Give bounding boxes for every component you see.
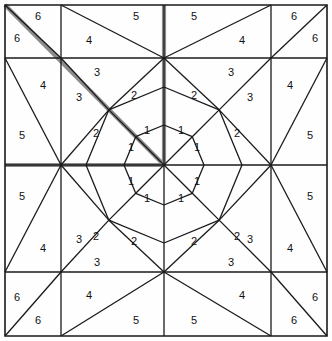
region-label-r5-n-w: 5: [133, 10, 139, 22]
region-label-r1-sse: 1: [178, 192, 184, 204]
tiling-figure: 1111111122222222333333334444444455555555…: [0, 0, 332, 341]
region-label-r5-w-n: 5: [19, 129, 25, 141]
region-label-r3-se-a: 3: [247, 233, 253, 245]
region-label-r3-sw-a: 3: [76, 233, 82, 245]
region-label-r1-ene: 1: [194, 141, 200, 153]
region-label-r2-sse: 2: [191, 235, 197, 247]
region-label-r6-nw-b: 6: [14, 32, 20, 44]
region-label-r1-ssw: 1: [144, 192, 150, 204]
region-label-r6-se-a: 6: [312, 291, 318, 303]
region-label-r1-wnw: 1: [128, 141, 134, 153]
region-label-r6-se-b: 6: [291, 314, 297, 326]
region-label-r6-ne-b: 6: [312, 32, 318, 44]
region-label-r2-ssw: 2: [131, 235, 137, 247]
diagram-canvas: 1111111122222222333333334444444455555555…: [0, 0, 332, 341]
region-label-r2-nne: 2: [191, 89, 197, 101]
region-label-r5-e-s: 5: [307, 190, 313, 202]
region-label-r1-nne: 1: [178, 124, 184, 136]
region-label-r2-ese: 2: [234, 230, 240, 242]
region-label-r5-s-e: 5: [191, 314, 197, 326]
region-label-r3-sw-b: 3: [94, 256, 100, 268]
region-label-r1-wsw: 1: [128, 175, 134, 187]
region-label-r4-s-w: 4: [86, 289, 92, 301]
region-label-r4-n-e: 4: [239, 34, 245, 46]
region-label-r4-s-e: 4: [239, 289, 245, 301]
region-label-r4-e-s: 4: [287, 242, 293, 254]
region-label-r3-nw-a: 3: [94, 66, 100, 78]
region-label-r5-n-e: 5: [191, 10, 197, 22]
region-label-r6-ne-a: 6: [291, 10, 297, 22]
region-label-r5-e-n: 5: [307, 129, 313, 141]
region-label-r2-wsw: 2: [93, 230, 99, 242]
region-label-r6-sw-b: 6: [35, 314, 41, 326]
region-label-r4-e-n: 4: [287, 79, 293, 91]
region-label-r2-ene: 2: [234, 127, 240, 139]
region-label-r6-nw-a: 6: [35, 10, 41, 22]
region-label-r2-wnw: 2: [93, 127, 99, 139]
region-label-r1-ese: 1: [194, 175, 200, 187]
region-label-r4-w-n: 4: [40, 79, 46, 91]
region-label-r3-nw-b: 3: [76, 91, 82, 103]
region-label-r3-ne-b: 3: [247, 91, 253, 103]
region-label-r6-sw-a: 6: [14, 291, 20, 303]
region-label-r2-nnw: 2: [131, 89, 137, 101]
region-label-r5-s-w: 5: [133, 314, 139, 326]
region-label-r3-ne-a: 3: [228, 66, 234, 78]
region-label-r4-n-w: 4: [86, 34, 92, 46]
region-label-r1-nnw: 1: [144, 124, 150, 136]
region-label-r5-w-s: 5: [19, 190, 25, 202]
region-label-r4-w-s: 4: [40, 242, 46, 254]
region-label-r3-se-b: 3: [228, 256, 234, 268]
